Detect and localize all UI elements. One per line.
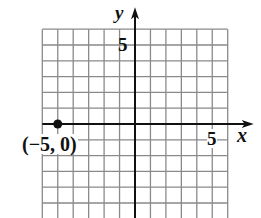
coordinate-plane — [0, 0, 261, 218]
y-axis-label: y — [115, 3, 123, 22]
data-point — [53, 120, 62, 129]
y-tick-label-5: 5 — [118, 35, 128, 54]
x-tick-label-5: 5 — [207, 129, 217, 148]
x-axis-label: x — [237, 125, 247, 145]
point-label: (−5, 0) — [22, 134, 78, 154]
